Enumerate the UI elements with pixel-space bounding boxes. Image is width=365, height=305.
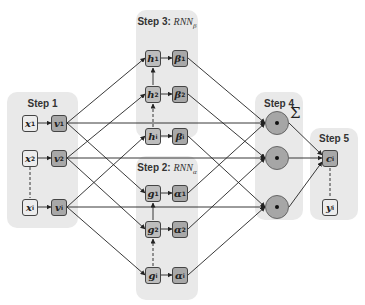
node-h1: h1 <box>145 50 161 67</box>
node-ci: ci <box>322 150 338 167</box>
elementwise-product-node-i <box>265 195 289 219</box>
elementwise-product-node-2 <box>265 146 289 170</box>
retain-model-diagram: Step 1 Step 3: RNNβ Step 2: RNNα Step 4 … <box>0 0 365 305</box>
dot-product-icon <box>275 156 279 160</box>
dot-product-icon <box>275 121 279 125</box>
node-g2: g2 <box>145 221 161 238</box>
sum-symbol: Σ <box>290 104 301 122</box>
node-alpha1: α1 <box>172 185 188 202</box>
elementwise-product-node-1 <box>265 111 289 135</box>
node-x2: x2 <box>22 150 38 167</box>
node-g1: g1 <box>145 185 161 202</box>
node-xi: xi <box>22 199 38 216</box>
node-beta1: β1 <box>172 50 188 67</box>
dot-product-icon <box>275 205 279 209</box>
node-h2: h2 <box>145 86 161 103</box>
node-vi: vi <box>51 199 67 216</box>
node-alphai: αi <box>172 267 188 284</box>
node-gi: gi <box>145 267 161 284</box>
node-v2: v2 <box>51 150 67 167</box>
node-x1: x1 <box>22 115 38 132</box>
node-betai: βi <box>172 128 188 145</box>
node-hi: hi <box>145 128 161 145</box>
node-beta2: β2 <box>172 86 188 103</box>
node-yi: yi <box>322 199 338 216</box>
node-v1: v1 <box>51 115 67 132</box>
node-alpha2: α2 <box>172 221 188 238</box>
